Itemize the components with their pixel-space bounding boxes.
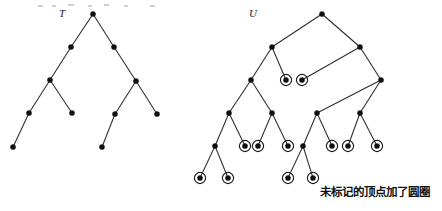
tree-diagram-svg: TU 未标记的顶点加了圆圈	[0, 0, 442, 211]
tree-edge	[251, 80, 272, 113]
scan-speck	[88, 5, 92, 7]
unmarked-vertex	[283, 77, 288, 82]
tree-layer	[10, 11, 383, 183]
marked-vertex	[154, 111, 159, 116]
scan-speck	[150, 5, 155, 7]
scan-speck	[124, 5, 128, 7]
tree-edge	[71, 14, 93, 47]
marked-vertex	[133, 78, 138, 83]
marked-vertex	[378, 77, 383, 82]
marked-vertex	[69, 110, 74, 115]
marked-vertex	[10, 144, 15, 149]
unmarked-vertex	[242, 143, 247, 148]
marked-vertex	[26, 110, 31, 115]
scan-speck	[52, 5, 56, 7]
tree-edge	[13, 113, 29, 147]
marked-vertex	[99, 144, 104, 149]
unmarked-vertex	[299, 77, 304, 82]
unmarked-vertex	[225, 175, 230, 180]
tree-edge	[322, 14, 360, 47]
tree-edge	[50, 80, 72, 113]
tree-edge	[229, 80, 251, 113]
tree-label-u: U	[249, 7, 258, 19]
scan-speck	[38, 5, 43, 7]
tree-edge	[303, 113, 317, 146]
marked-vertex	[300, 143, 305, 148]
unmarked-vertex	[255, 143, 260, 148]
tree-edge	[251, 47, 272, 80]
tree-edge	[317, 80, 381, 113]
tree-u	[194, 11, 383, 183]
unmarked-vertex	[285, 175, 290, 180]
marked-vertex	[90, 11, 95, 16]
tree-edge	[360, 47, 381, 80]
tree-edge	[272, 14, 322, 47]
tree-edges	[200, 14, 381, 178]
tree-edge	[50, 47, 71, 80]
scan-speck	[68, 4, 74, 6]
tree-edge	[115, 81, 136, 114]
marked-vertex	[248, 77, 253, 82]
marked-vertex	[226, 110, 231, 115]
unmarked-vertex	[345, 143, 350, 148]
marked-vertex	[68, 44, 73, 49]
unmarked-vertex	[374, 143, 379, 148]
tree-edge	[29, 80, 50, 113]
tree-edge	[136, 81, 157, 114]
marked-vertex	[212, 143, 217, 148]
tree-edge	[114, 47, 136, 81]
marked-vertex	[269, 44, 274, 49]
tree-t	[10, 11, 159, 149]
marked-vertex	[314, 110, 319, 115]
figure-container: TU 未标记的顶点加了圆圈	[0, 0, 442, 211]
unmarked-vertex	[310, 175, 315, 180]
marked-vertex	[319, 11, 324, 16]
marked-vertex	[357, 110, 362, 115]
tree-edge	[302, 47, 360, 80]
figure-caption: 未标记的顶点加了圆圈	[319, 185, 430, 199]
scan-artifact-layer	[38, 4, 155, 7]
tree-edge	[93, 14, 114, 47]
tree-edge	[102, 114, 115, 147]
unmarked-vertex	[285, 143, 290, 148]
unmarked-vertex	[329, 143, 334, 148]
marked-vertex	[111, 44, 116, 49]
marked-vertex	[47, 77, 52, 82]
tree-nodes	[194, 11, 383, 183]
tree-label-layer: TU	[59, 7, 258, 19]
unmarked-vertex	[197, 175, 202, 180]
marked-vertex	[112, 111, 117, 116]
marked-vertex	[357, 44, 362, 49]
tree-edge	[215, 113, 229, 146]
marked-vertex	[269, 110, 274, 115]
tree-label-t: T	[59, 7, 66, 19]
scan-speck	[104, 4, 109, 6]
tree-nodes	[10, 11, 159, 149]
